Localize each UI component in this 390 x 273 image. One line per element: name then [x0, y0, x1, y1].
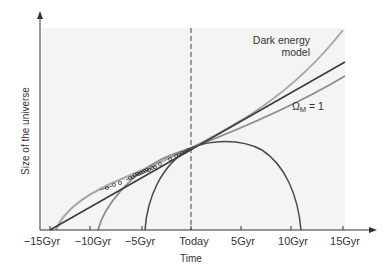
omega-value: = 1: [306, 100, 324, 112]
y-axis-arrow-icon: [37, 11, 43, 19]
x-tick-label: 5Gyr: [231, 235, 255, 247]
dark-energy-label: Dark energy: [253, 34, 311, 46]
x-tick-label: −5Gyr: [125, 235, 156, 247]
universe-expansion-chart: −15Gyr −10Gyr −5Gyr Today 5Gyr 10Gyr 15G…: [0, 0, 390, 273]
dark-energy-label-line2: model: [281, 46, 310, 58]
omega-symbol: Ω: [292, 100, 300, 112]
x-tick-label: 10Gyr: [278, 235, 308, 247]
omega-m-label: ΩM = 1: [292, 100, 324, 114]
plot-area: [42, 28, 345, 230]
x-tick-label: Today: [179, 235, 209, 247]
x-tick-label: −10Gyr: [75, 235, 112, 247]
x-axis-title: Time: [180, 253, 202, 264]
x-axis-arrow-icon: [369, 227, 377, 233]
y-axis-title: Size of the universe: [20, 87, 31, 175]
x-tick-label: 15Gyr: [330, 235, 360, 247]
x-tick-label: −15Gyr: [24, 235, 61, 247]
